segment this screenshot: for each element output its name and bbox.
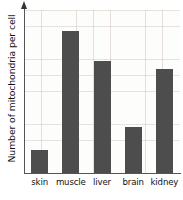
x-tick-label-brain: brain bbox=[116, 177, 151, 187]
y-axis-line bbox=[24, 8, 25, 174]
bar-brain bbox=[125, 127, 142, 173]
y-axis-title-text: Number of mitochondria per cell bbox=[6, 14, 17, 162]
plot-area bbox=[24, 10, 180, 173]
bar-liver bbox=[94, 61, 111, 173]
bar-kidney bbox=[156, 69, 173, 173]
y-axis-title: Number of mitochondria per cell bbox=[0, 0, 22, 176]
x-tick-label-skin: skin bbox=[22, 177, 57, 187]
x-axis-tick-labels: skinmuscleliverbrainkidney bbox=[24, 177, 183, 197]
bar-skin bbox=[31, 150, 48, 173]
y-axis-arrow-icon bbox=[21, 1, 27, 9]
x-tick-label-liver: liver bbox=[84, 177, 119, 187]
bar-chart: Number of mitochondria per cell skinmusc… bbox=[0, 0, 183, 200]
x-tick-label-muscle: muscle bbox=[53, 177, 88, 187]
bar-series bbox=[24, 10, 180, 173]
bar-muscle bbox=[62, 31, 79, 173]
x-axis-line bbox=[24, 173, 181, 174]
x-tick-label-kidney: kidney bbox=[147, 177, 182, 187]
